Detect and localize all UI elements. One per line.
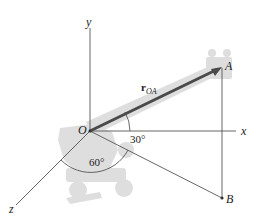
point-b-label: B: [226, 193, 233, 205]
position-vector-diagram: y x z O A B rOA 30° 60°: [0, 0, 258, 220]
angle-30-label: 30°: [130, 134, 145, 145]
z-axis-label: z: [9, 203, 14, 215]
vector-subscript: OA: [146, 87, 157, 96]
y-axis-label: y: [86, 16, 91, 28]
x-axis-label: x: [241, 125, 246, 137]
point-b: [220, 196, 223, 199]
point-o-label: O: [78, 124, 87, 136]
diagram-graphics: [0, 0, 258, 220]
angle-60-label: 60°: [89, 157, 104, 168]
point-o: [88, 129, 91, 132]
vector-label: rOA: [141, 82, 157, 96]
point-a-label: A: [225, 60, 232, 72]
vector-r-oa: [90, 67, 222, 131]
